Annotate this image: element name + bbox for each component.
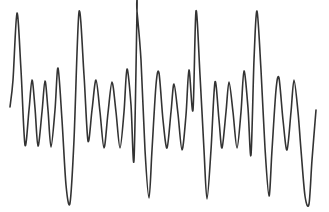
waveform-canvas [0,0,329,212]
waveform-figure [0,0,329,212]
chart-background [0,0,329,212]
